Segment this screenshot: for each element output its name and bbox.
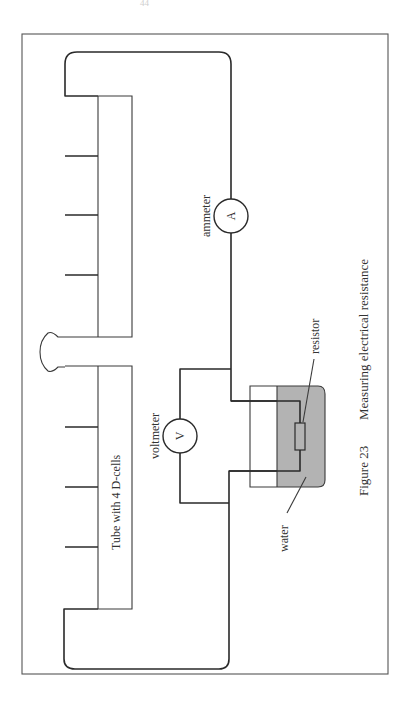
water-label: water (277, 525, 291, 552)
wire-voltmeter-bottom (180, 453, 229, 503)
circuit-diagram: 44 Tube with 4 D-cells A am (0, 0, 410, 702)
figure-frame (22, 34, 388, 674)
tube-connector-bulb (40, 333, 65, 372)
tube-label: Tube with 4 D-cells (109, 454, 123, 550)
resistor-label: resistor (308, 319, 322, 354)
wire-bottom-loop (64, 450, 300, 669)
battery-tube: Tube with 4 D-cells (40, 96, 132, 609)
wire-voltmeter-top (180, 369, 231, 419)
figure-caption: Figure 23 Measuring electrical resistanc… (356, 259, 371, 496)
wire-ammeter-to-resistor (231, 233, 280, 401)
ammeter-symbol: A (224, 211, 238, 220)
ammeter-label: ammeter (199, 195, 213, 237)
figure-title: Measuring electrical resistance (356, 259, 371, 420)
circuit-wires (64, 52, 300, 669)
voltmeter-label: voltmeter (148, 413, 162, 459)
ammeter: A ammeter (199, 195, 248, 237)
figure-number: Figure 23 (356, 446, 371, 496)
resistor-symbol (295, 423, 305, 450)
page-number: 44 (140, 0, 150, 8)
wire-top-loop (65, 52, 231, 199)
voltmeter-symbol: V (173, 431, 187, 440)
voltmeter: V voltmeter (148, 413, 197, 459)
